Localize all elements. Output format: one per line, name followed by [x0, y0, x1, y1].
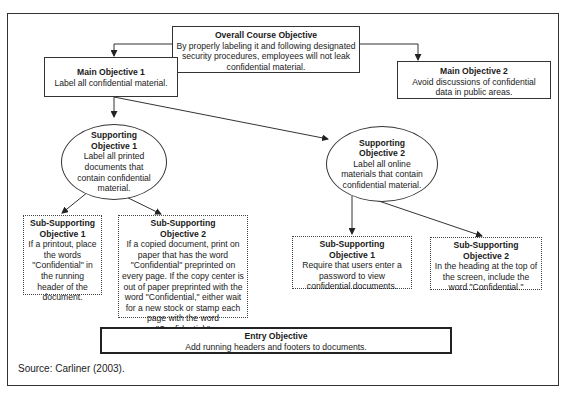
arrow-sup1-to-sub1	[62, 192, 88, 213]
sub-1-1-title-line1: Sub-Supporting	[27, 218, 98, 229]
supporting-objective-2: Supporting Objective 2 Label all online …	[326, 126, 438, 202]
sub-supporting-objective-1-1: Sub-Supporting Objective 1 If a printout…	[23, 215, 102, 295]
sub-1-2-title-line1: Sub-Supporting	[122, 218, 244, 229]
sub-2-1-title-line1: Sub-Supporting	[297, 239, 407, 250]
entry-objective-title: Entry Objective	[102, 331, 450, 342]
sub-supporting-objective-2-2: Sub-Supporting Objective 2 In the headin…	[430, 237, 542, 290]
main-objective-1: Main Objective 1 Label all confidential …	[44, 57, 178, 97]
source-citation: Source: Carliner (2003).	[18, 363, 125, 374]
supporting-objective-1: Supporting Objective 1 Label all printed…	[61, 124, 167, 200]
sub-2-2-title-line1: Sub-Supporting	[433, 240, 539, 251]
arrow-overall-to-main2	[360, 44, 418, 60]
main-objective-2-title: Main Objective 2	[408, 66, 540, 77]
sub-2-2-title-line2: Objective 2	[433, 251, 539, 262]
overall-title: Overall Course Objective	[173, 30, 359, 41]
sub-2-2-body: In the heading at the top of the screen,…	[433, 261, 539, 293]
main-objective-1-title: Main Objective 1	[45, 67, 177, 78]
main-objective-2: Main Objective 2 Avoid discussions of co…	[397, 61, 551, 99]
sub-1-1-title-line2: Objective 1	[27, 229, 98, 240]
main-objective-2-body: Avoid discussions of confidential data i…	[408, 77, 540, 98]
sub-2-1-title-line2: Objective 1	[297, 250, 407, 261]
sub-1-2-title-line2: Objective 2	[122, 229, 244, 240]
supporting-objective-1-title-line2: Objective 1	[91, 141, 137, 152]
arrow-sup2-to-sub2	[364, 196, 482, 236]
supporting-objective-2-body: Label all online materials that contain …	[341, 159, 423, 191]
supporting-objective-2-title-line2: Objective 2	[359, 148, 405, 159]
sub-2-1-body: Require that users enter a password to v…	[297, 260, 407, 292]
supporting-objective-1-title-line1: Supporting	[91, 130, 137, 141]
entry-objective: Entry Objective Add running headers and …	[100, 327, 452, 354]
entry-objective-body: Add running headers and footers to docum…	[102, 342, 450, 353]
overall-body: By properly labeling it and following de…	[173, 41, 359, 73]
arrow-overall-to-main1	[114, 44, 172, 56]
sub-1-1-body: If a printout, place the words "Confiden…	[27, 239, 98, 303]
overall-course-objective: Overall Course Objective By properly lab…	[172, 26, 360, 73]
sub-1-2-body: If a copied document, print on paper tha…	[122, 239, 244, 334]
supporting-objective-2-title-line1: Supporting	[359, 138, 405, 149]
sub-supporting-objective-2-1: Sub-Supporting Objective 1 Require that …	[292, 236, 412, 289]
sub-supporting-objective-1-2: Sub-Supporting Objective 2 If a copied d…	[118, 215, 248, 318]
supporting-objective-1-body: Label all printed documents that contain…	[74, 151, 154, 193]
main-objective-1-body: Label all confidential material.	[45, 78, 177, 89]
